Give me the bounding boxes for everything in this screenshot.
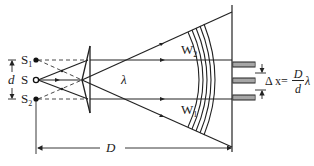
source-s-dot <box>33 77 38 82</box>
label-D: D <box>106 141 115 154</box>
label-w2: W2 <box>181 43 197 56</box>
fraction-bar <box>292 80 304 81</box>
formula-lhs: Δ x= <box>265 75 288 87</box>
interference-diagram: S1 S S2 d λ W2 W1 D Δ x= D d λ <box>0 0 314 166</box>
label-w1: W1 <box>181 103 197 116</box>
label-s2: S2 <box>21 92 32 105</box>
source-s2-dot <box>33 96 38 101</box>
source-rays <box>38 60 88 99</box>
label-s1: S1 <box>21 53 32 66</box>
formula-lambda: λ <box>305 75 310 87</box>
label-s: S <box>21 73 28 86</box>
refracted-rays <box>82 12 232 147</box>
label-d: d <box>8 73 15 86</box>
distance-marker <box>36 99 231 154</box>
formula-denominator: d <box>292 82 304 97</box>
source-s1-dot <box>33 57 38 62</box>
fringes <box>233 62 255 100</box>
label-lambda: λ <box>121 73 127 86</box>
